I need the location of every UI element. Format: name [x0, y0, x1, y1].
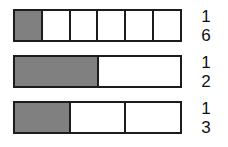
bar-cell-empty	[98, 11, 126, 40]
fraction-numerator: 1	[201, 8, 210, 26]
bar-cell-empty	[71, 103, 127, 132]
fraction-denominator: 6	[201, 26, 210, 44]
bar-cell-shaded	[15, 57, 99, 86]
fraction-diagram: 1 6 1 2 1 3	[0, 0, 228, 147]
fraction-numerator: 1	[201, 100, 210, 118]
fraction-bar-one-sixth	[13, 9, 182, 42]
fraction-label-one-half: 1 2	[193, 55, 219, 88]
bar-cell-empty	[71, 11, 99, 40]
bar-cell-empty	[126, 103, 180, 132]
fraction-label-one-sixth: 1 6	[193, 9, 219, 42]
fraction-bar-one-half	[13, 55, 182, 88]
bar-cell-empty	[43, 11, 71, 40]
bar-cell-shaded	[15, 11, 43, 40]
fraction-denominator: 3	[201, 118, 210, 136]
bar-cell-shaded	[15, 103, 71, 132]
bar-cell-empty	[99, 57, 181, 86]
fraction-denominator: 2	[201, 72, 210, 90]
fraction-numerator: 1	[201, 54, 210, 72]
bar-cell-empty	[126, 11, 154, 40]
bar-cell-empty	[154, 11, 180, 40]
fraction-bar-one-third	[13, 101, 182, 134]
fraction-label-one-third: 1 3	[193, 101, 219, 134]
